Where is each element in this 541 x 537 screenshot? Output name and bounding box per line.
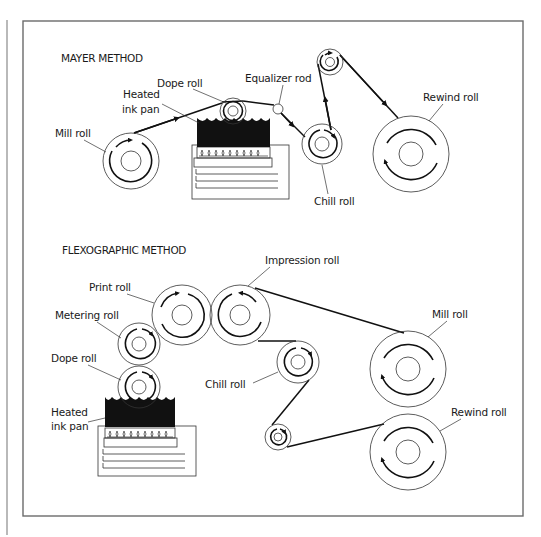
mayer-heater [192,145,289,199]
mayer-chill-roll [302,124,342,164]
label-heated-ink-pan-1: Heated [123,88,160,100]
mayer-method-section: MAYER METHOD [55,49,479,207]
flexo-metering-roll [118,323,160,365]
mayer-equalizer-rod [273,104,283,114]
flexo-heater [98,426,196,476]
label-heated-ink-pan-flexo-1: Heated [51,406,88,418]
mayer-rewind-roll [373,116,449,192]
flexo-rewind-roll [370,414,446,490]
flexo-impression-roll [210,285,270,345]
label-heated-ink-pan-2: ink pan [122,103,159,115]
label-rewind-roll: Rewind roll [423,91,479,103]
flexo-idler-roll [265,424,291,450]
flexo-chill-roll [277,341,319,383]
label-chill-roll: Chill roll [314,195,354,207]
label-mill-roll-flexo: Mill roll [432,308,468,320]
mayer-idler-roll [317,49,343,75]
label-dope-roll-flexo: Dope roll [51,352,97,364]
label-rewind-roll-flexo: Rewind roll [451,406,507,418]
burner-flames-icon [199,150,268,156]
label-chill-roll-flexo: Chill roll [205,378,245,390]
label-impression-roll: Impression roll [265,254,339,266]
flexo-dope-roll [118,366,160,408]
label-print-roll: Print roll [89,281,131,293]
label-metering-roll: Metering roll [55,309,119,321]
mayer-ink-pan [197,114,270,147]
label-mill-roll: Mill roll [55,127,91,139]
flexo-mill-roll [370,331,446,407]
flexographic-method-section: FLEXOGRAPHIC METHOD [51,244,507,490]
flexographic-title: FLEXOGRAPHIC METHOD [62,244,186,256]
burner-flames-icon [107,431,173,437]
label-equalizer-rod: Equalizer rod [245,72,311,84]
flexo-print-roll [152,285,212,345]
mayer-mill-roll [103,133,159,189]
coating-methods-diagram: MAYER METHOD [0,0,541,537]
flexo-ink-pan [105,394,175,427]
mayer-title: MAYER METHOD [61,52,143,64]
label-dope-roll: Dope roll [157,77,203,89]
label-heated-ink-pan-flexo-2: ink pan [51,420,88,432]
